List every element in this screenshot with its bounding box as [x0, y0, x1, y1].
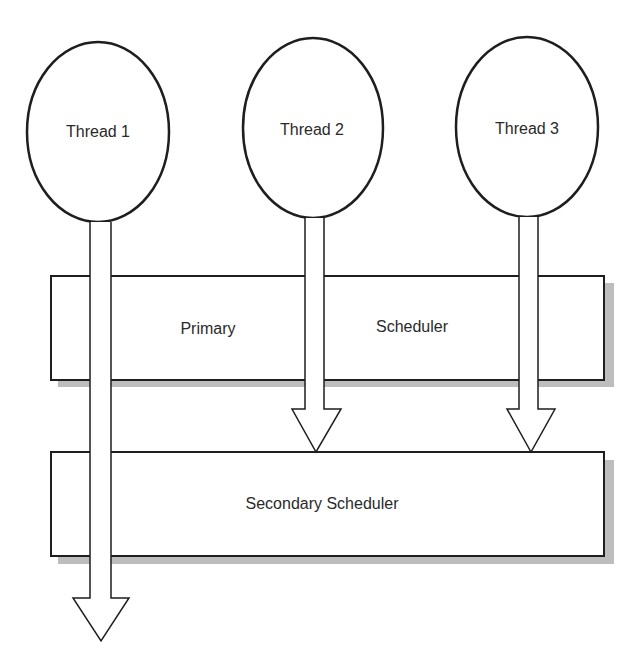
diagram-canvas — [0, 0, 639, 672]
thread-2-label: Thread 2 — [280, 121, 344, 139]
thread-3-label: Thread 3 — [495, 120, 559, 138]
secondary-scheduler-label: Secondary Scheduler — [246, 495, 399, 513]
thread-1-label: Thread 1 — [66, 123, 130, 141]
primary-scheduler-label-left: Primary — [180, 320, 235, 338]
primary-scheduler-label-right: Scheduler — [376, 318, 448, 336]
